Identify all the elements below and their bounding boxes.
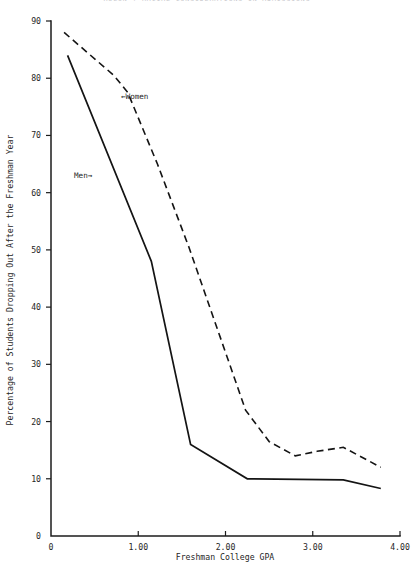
series-line-men: [68, 55, 381, 488]
x-tick-label: 0: [49, 542, 54, 552]
x-axis-title: Freshman College GPA: [176, 552, 275, 562]
x-axis-tick-labels: 01.002.003.004.00: [49, 542, 410, 552]
y-tick-label: 20: [31, 417, 41, 427]
x-tick-label: 2.00: [216, 542, 236, 552]
line-chart-canvas: 0102030405060708090 01.002.003.004.00 Fr…: [0, 0, 414, 568]
series-annotation-men: Men→: [74, 171, 93, 180]
y-tick-label: 60: [31, 188, 41, 198]
chart-figure: RULON | RACIAL CONSIDERATIONS IN ADMISSI…: [0, 0, 414, 568]
axes: [51, 21, 400, 536]
y-tick-label: 10: [31, 474, 41, 484]
y-tick-label: 40: [31, 302, 41, 312]
y-tick-label: 70: [31, 130, 41, 140]
y-tick-label: 80: [31, 73, 41, 83]
x-tick-label: 1.00: [128, 542, 148, 552]
y-tick-label: 50: [31, 245, 41, 255]
y-axis-tick-labels: 0102030405060708090: [31, 16, 41, 541]
x-tick-label: 4.00: [390, 542, 410, 552]
y-tick-label: 30: [31, 359, 41, 369]
series-line-women: [64, 32, 381, 467]
series-annotation-women: ←Women: [121, 92, 148, 101]
axis-lines: [51, 21, 400, 536]
y-tick-label: 90: [31, 16, 41, 26]
x-tick-label: 3.00: [303, 542, 323, 552]
y-tick-label: 0: [36, 531, 41, 541]
y-axis-title: Percentage of Students Dropping Out Afte…: [5, 135, 15, 426]
